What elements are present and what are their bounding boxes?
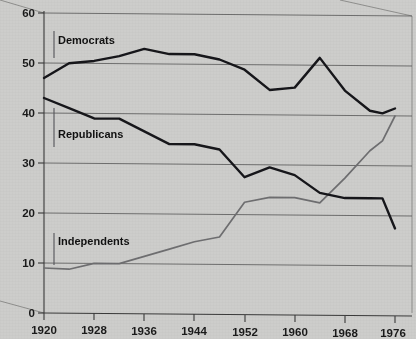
gridline-20 [44, 213, 412, 216]
x-axis [44, 313, 412, 316]
y-tick-marks [38, 13, 44, 313]
series-label-republicans: Republicans [58, 128, 123, 140]
gridline-40 [44, 113, 412, 116]
y-tick-labels: 60 50 40 30 20 10 0 [22, 7, 35, 319]
chart-figure: 60 50 40 30 20 10 0 1920 1928 1936 1944 … [0, 0, 416, 339]
y-label-50: 50 [22, 57, 35, 69]
x-label-1936: 1936 [131, 325, 157, 337]
y-label-10: 10 [22, 257, 35, 269]
x-label-1960: 1960 [282, 326, 308, 338]
x-label-1928: 1928 [81, 324, 107, 336]
fold-bottom-left [0, 301, 44, 313]
x-label-1952: 1952 [232, 326, 258, 338]
x-label-1968: 1968 [332, 327, 358, 339]
x-label-1976: 1976 [380, 327, 406, 339]
x-label-1920: 1920 [31, 324, 57, 336]
x-label-1944: 1944 [181, 325, 207, 337]
y-label-20: 20 [22, 207, 35, 219]
page-edge-artifacts [0, 0, 412, 313]
fold-top-right [340, 0, 412, 16]
x-tick-labels: 1920 1928 1936 1944 1952 1960 1968 1976 [31, 324, 406, 339]
series-label-democrats: Democrats [58, 34, 115, 46]
series-line-democrats [44, 49, 395, 114]
y-label-30: 30 [22, 157, 35, 169]
y-label-40: 40 [22, 107, 35, 119]
party-identification-line-chart: 60 50 40 30 20 10 0 1920 1928 1936 1944 … [0, 0, 416, 339]
gridline-60 [44, 13, 412, 16]
y-label-0: 0 [29, 307, 35, 319]
y-label-60: 60 [22, 7, 35, 19]
series-label-independents: Independents [58, 235, 130, 247]
